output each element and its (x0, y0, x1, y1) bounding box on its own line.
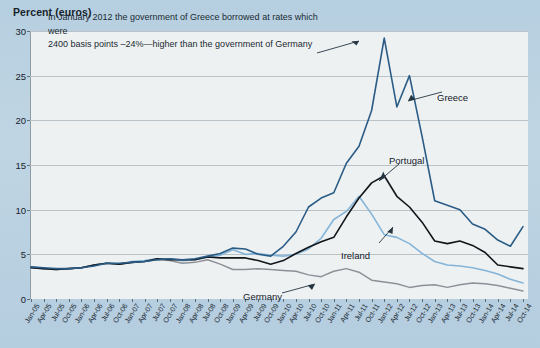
x-tick-mark (510, 299, 511, 302)
y-tick-label: 30 (15, 26, 26, 37)
x-tick-mark (208, 299, 209, 302)
y-tick-label: 5 (21, 249, 26, 260)
data-lines (30, 31, 528, 299)
x-tick-mark (372, 299, 373, 302)
x-tick-mark (321, 299, 322, 302)
y-tick-label: 25 (15, 70, 26, 81)
x-tick-mark (119, 299, 120, 302)
x-tick-mark (170, 299, 171, 302)
x-tick-mark (485, 299, 486, 302)
series-label-ireland: Ireland (341, 250, 370, 261)
x-tick-mark (157, 299, 158, 302)
series-label-greece: Greece (437, 92, 468, 103)
x-tick-mark (107, 299, 108, 302)
x-tick-mark (409, 299, 410, 302)
x-tick-mark (44, 299, 45, 302)
x-tick-mark (94, 299, 95, 302)
x-tick-mark (81, 299, 82, 302)
annotation-line-1: In January 2012 the government of Greece… (48, 11, 338, 38)
y-tick-label: 15 (15, 160, 26, 171)
annotation-line-2: 2400 basis points –24%—higher than the g… (48, 38, 338, 52)
x-tick-mark (473, 299, 474, 302)
x-tick-mark (145, 299, 146, 302)
x-tick-mark (182, 299, 183, 302)
series-line-greece (31, 38, 523, 268)
x-tick-mark (283, 299, 284, 302)
y-tick-label: 10 (15, 204, 26, 215)
x-tick-mark (31, 299, 32, 302)
chart-annotation: In January 2012 the government of Greece… (48, 11, 338, 52)
x-tick-mark (498, 299, 499, 302)
x-tick-mark (334, 299, 335, 302)
x-tick-mark (447, 299, 448, 302)
x-tick-mark (359, 299, 360, 302)
y-tick-label: 0 (21, 294, 26, 305)
x-tick-mark (422, 299, 423, 302)
x-tick-mark (220, 299, 221, 302)
x-tick-mark (56, 299, 57, 302)
y-tick-mark (27, 299, 30, 300)
x-tick-mark (195, 299, 196, 302)
x-tick-mark (346, 299, 347, 302)
chart-figure: Percent (euros) 051015202530 Jan-05Apr-0… (0, 0, 540, 348)
x-tick-mark (384, 299, 385, 302)
x-tick-mark (435, 299, 436, 302)
series-label-portugal: Portugal (389, 155, 424, 166)
x-tick-mark (523, 299, 524, 302)
x-tick-mark (309, 299, 310, 302)
series-label-germany: Germany (243, 291, 282, 302)
y-tick-label: 20 (15, 115, 26, 126)
plot-area: 051015202530 Jan-05Apr-05Jul-05Oct-05Jan… (30, 31, 528, 299)
